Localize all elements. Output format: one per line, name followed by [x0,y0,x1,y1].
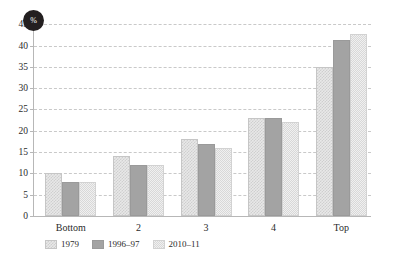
y-axis-tick-mark [30,46,33,47]
y-axis-tick-label: 35 [19,62,29,72]
bar [130,165,147,216]
x-axis-tick-label: Top [316,222,367,233]
y-axis-line [33,20,34,216]
y-axis-tick-mark [30,216,33,217]
bar [333,40,350,216]
y-axis-tick-mark [30,109,33,110]
bar-group [248,20,299,216]
y-axis-tick-mark [30,152,33,153]
y-axis-tick-label: 0 [23,211,28,221]
legend-item[interactable]: 1979 [45,239,79,249]
bar-group [45,20,96,216]
bar [282,122,299,216]
plot-area: 051015202530354045 Bottom234Top [33,20,371,216]
y-axis-tick-mark [30,88,33,89]
bar [147,165,164,216]
y-axis-tick-label: 5 [23,190,28,200]
y-axis-tick-label: 30 [19,83,29,93]
legend-label: 1996–97 [108,239,140,249]
percent-badge: % [23,10,44,31]
x-axis-tick-label: 3 [181,222,232,233]
x-axis-line [33,216,371,217]
bar [45,173,62,216]
legend-item[interactable]: 1996–97 [92,239,140,249]
bar [62,182,79,216]
bar [215,148,232,216]
bar [316,67,333,216]
bar [198,144,215,216]
y-axis-tick-mark [30,173,33,174]
bar-group [181,20,232,216]
y-axis-tick-label: 20 [19,126,29,136]
bar [265,118,282,216]
bar-chart-figure: % 051015202530354045 Bottom234Top 197919… [0,0,394,271]
y-axis-tick-label: 10 [19,168,29,178]
bar [79,182,96,216]
x-axis-tick-label: 4 [248,222,299,233]
y-axis-tick-mark [30,195,33,196]
chart-legend: 19791996–972010–11 [45,239,200,249]
legend-label: 1979 [61,239,79,249]
y-axis-tick-mark [30,131,33,132]
legend-label: 2010–11 [169,239,200,249]
y-axis-tick-label: 25 [19,104,29,114]
bar-group [113,20,164,216]
bar [350,34,367,216]
legend-swatch-icon [153,240,165,249]
bar-group [316,20,367,216]
bar [181,139,198,216]
bar [248,118,265,216]
legend-swatch-icon [92,240,104,249]
y-axis-tick-mark [30,67,33,68]
legend-item[interactable]: 2010–11 [153,239,200,249]
legend-swatch-icon [45,240,57,249]
y-axis-tick-label: 15 [19,147,29,157]
bar [113,156,130,216]
x-axis-tick-label: Bottom [45,222,96,233]
x-axis-tick-label: 2 [113,222,164,233]
y-axis-tick-label: 40 [19,41,29,51]
